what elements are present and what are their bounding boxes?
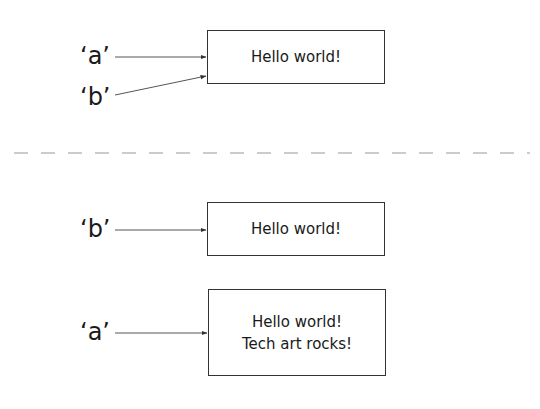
arrow-b-to-top-box xyxy=(115,76,206,95)
box-text-line: Hello world! xyxy=(252,311,342,333)
box-text-line: Hello world! xyxy=(251,218,341,240)
string-object-box: Hello world! xyxy=(207,202,385,256)
string-object-box: Hello world! Tech art rocks! xyxy=(208,289,386,376)
box-text-line: Hello world! xyxy=(251,46,341,68)
variable-label-a: ‘a’ xyxy=(80,320,110,344)
box-text-line: Tech art rocks! xyxy=(242,333,352,355)
variable-label-a: ‘a’ xyxy=(80,44,110,68)
variable-label-b: ‘b’ xyxy=(80,85,111,109)
variable-label-b: ‘b’ xyxy=(80,217,111,241)
string-object-box: Hello world! xyxy=(207,30,385,84)
